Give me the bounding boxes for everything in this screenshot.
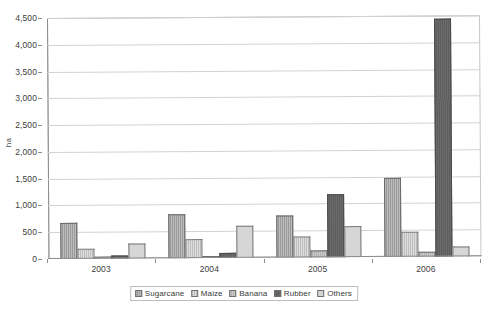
bar-sugarcane-2006	[384, 178, 401, 257]
y-tick-label-3000: 3,000	[15, 93, 37, 103]
y-tick-mark-3500	[38, 72, 42, 73]
bar-groups	[47, 15, 481, 259]
x-axis-labels: 2003200420052006	[47, 264, 480, 280]
y-tick-mark-4000	[38, 45, 42, 46]
bar-maize-2006	[402, 232, 419, 257]
bar-others-2004	[236, 226, 253, 258]
y-tick-label-1000: 1,000	[15, 200, 37, 210]
bar-chart: ha 4,5004,0003,5003,0002,5002,0001,5001,…	[0, 0, 488, 311]
y-tick-mark-3000	[38, 98, 42, 99]
legend-swatch-banana-icon	[230, 290, 237, 297]
bar-sugarcane-2003	[60, 223, 77, 259]
y-tick-label-4000: 4,000	[15, 40, 37, 50]
x-axis-label-2004: 2004	[155, 264, 263, 280]
bar-others-2005	[344, 226, 361, 257]
legend-label-others: Others	[327, 289, 352, 298]
y-tick-label-2000: 2,000	[15, 147, 37, 157]
legend-label-sugarcane: Sugarcane	[145, 289, 185, 298]
legend-item-others[interactable]: Others	[318, 289, 352, 298]
legend-swatch-rubber-icon	[274, 290, 281, 297]
legend-item-banana[interactable]: Banana	[230, 289, 268, 298]
legend-swatch-sugarcane-icon	[135, 290, 142, 297]
y-tick-mark-1500	[38, 179, 42, 180]
legend-swatch-maize-icon	[191, 290, 198, 297]
y-tick-mark-2000	[38, 152, 42, 153]
x-tick-3	[372, 259, 373, 263]
bar-rubber-2005	[327, 194, 344, 257]
legend-swatch-others-icon	[318, 290, 325, 297]
y-tick-label-1500: 1,500	[15, 174, 37, 184]
legend-label-rubber: Rubber	[284, 289, 311, 298]
bar-others-2003	[128, 243, 145, 258]
x-axis-label-2005: 2005	[264, 264, 372, 280]
y-tick-label-0: 0	[32, 254, 37, 264]
bar-maize-2004	[185, 239, 202, 258]
chart-legend: SugarcaneMaizeBananaRubberOthers	[130, 286, 358, 301]
x-axis-label-2006: 2006	[372, 264, 480, 280]
y-tick-label-2500: 2,500	[15, 120, 37, 130]
y-tick-mark-1000	[38, 205, 42, 206]
bar-group-2004	[155, 17, 265, 259]
bar-group-2003	[47, 17, 157, 259]
plot-area	[47, 18, 480, 259]
y-tick-label-3500: 3,500	[15, 67, 37, 77]
y-tick-mark-4500	[38, 18, 42, 19]
x-tick-0	[47, 259, 48, 263]
bar-maize-2005	[293, 237, 310, 258]
x-tick-2	[264, 259, 265, 263]
x-axis-label-2003: 2003	[47, 264, 155, 280]
x-axis-ticks	[47, 259, 480, 263]
legend-item-sugarcane[interactable]: Sugarcane	[135, 289, 184, 298]
y-tick-label-4500: 4,500	[15, 13, 37, 23]
bar-group-2006	[372, 15, 482, 257]
legend-label-maize: Maize	[201, 289, 223, 298]
y-tick-label-500: 500	[23, 227, 37, 237]
x-tick-4	[480, 259, 481, 263]
legend-item-maize[interactable]: Maize	[191, 289, 222, 298]
y-tick-mark-0	[38, 259, 42, 260]
y-tick-mark-500	[38, 232, 42, 233]
x-tick-1	[155, 259, 156, 263]
y-tick-mark-2500	[38, 125, 42, 126]
bar-group-2005	[263, 16, 373, 258]
y-axis-tick-labels: 4,5004,0003,5003,0002,5002,0001,5001,000…	[0, 18, 42, 259]
legend-item-rubber[interactable]: Rubber	[274, 289, 310, 298]
bar-rubber-2006	[434, 18, 452, 256]
bar-sugarcane-2004	[168, 214, 185, 258]
bar-sugarcane-2005	[276, 216, 293, 258]
legend-label-banana: Banana	[239, 289, 267, 298]
